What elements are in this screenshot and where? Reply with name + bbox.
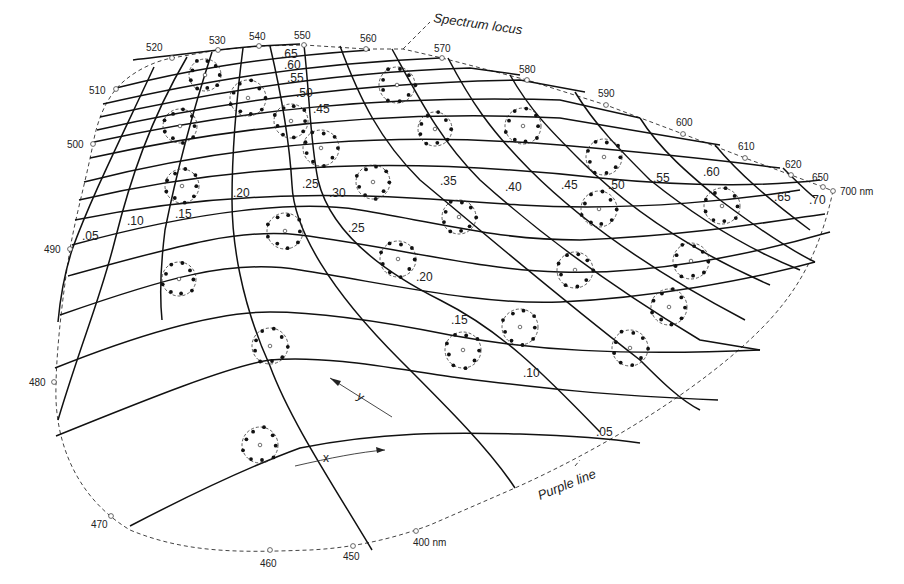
- ellipse: [501, 309, 538, 347]
- y-coordinate-label: .45: [313, 102, 330, 116]
- wavelength-label: 550: [294, 30, 311, 41]
- y-coordinate-label: .10: [523, 366, 540, 380]
- wavelength-markers: [52, 43, 836, 553]
- ellipse: [303, 130, 340, 168]
- x-coordinate-label: .35: [440, 174, 457, 188]
- x-coordinate-label: .45: [561, 178, 578, 192]
- wavelength-marker: [743, 156, 748, 161]
- wavelength-marker: [109, 514, 114, 519]
- wavelength-marker: [414, 529, 419, 534]
- y-coordinate-label: .55: [287, 71, 304, 85]
- ellipse-center: [246, 96, 250, 100]
- ellipse: [161, 261, 196, 296]
- ellipse-center: [518, 325, 522, 329]
- y-arrow-head: [330, 378, 341, 386]
- wavelength-label: 570: [434, 43, 451, 54]
- x-coordinate-label: .50: [608, 178, 625, 192]
- x-coordinate-label: .60: [703, 165, 720, 179]
- ellipse: [580, 190, 619, 227]
- x-coordinate-label: .10: [127, 214, 144, 228]
- ellipse-center: [461, 348, 465, 352]
- ellipse-center: [457, 215, 461, 219]
- x-coordinate-label: .25: [302, 177, 319, 191]
- x-coordinate-label: .40: [505, 180, 522, 194]
- spectrum-locus-leader: [403, 22, 430, 49]
- y-coordinate-label: .05: [596, 425, 613, 439]
- ellipse: [241, 425, 278, 463]
- ellipse: [189, 59, 222, 91]
- ellipse: [586, 139, 622, 175]
- wavelength-marker: [831, 189, 836, 194]
- x-coordinate-label: .65: [774, 190, 791, 204]
- wavelength-marker: [789, 173, 794, 178]
- wavelength-label: 470: [91, 519, 108, 530]
- ellipse-center: [258, 443, 262, 447]
- wavelength-label: 650: [812, 172, 829, 183]
- wavelength-marker: [114, 87, 119, 92]
- y-coordinate-label: .15: [451, 313, 468, 327]
- wavelength-label: 500: [67, 139, 84, 150]
- x-arrow-head: [376, 447, 385, 453]
- x-grid-lines: [58, 45, 815, 550]
- wavelength-marker: [170, 56, 175, 61]
- wavelength-label: 610: [738, 141, 755, 152]
- y-coordinate-label: .20: [416, 270, 433, 284]
- wavelength-marker: [681, 132, 686, 137]
- axis-arrows: [295, 378, 392, 466]
- ellipse-center: [628, 346, 632, 350]
- wavelength-label: 600: [676, 117, 693, 128]
- labels: 520530540550560570580590600610620650700 …: [29, 30, 873, 569]
- ellipse-center: [395, 83, 399, 87]
- discrimination-ellipses: [161, 59, 740, 463]
- ellipse-center: [521, 124, 525, 128]
- x-coordinate-label: .05: [82, 229, 99, 243]
- ellipse-center: [203, 73, 207, 77]
- wavelength-label: 490: [44, 244, 61, 255]
- ellipse-center: [177, 277, 181, 281]
- wavelength-label: 530: [209, 35, 226, 46]
- wavelength-marker: [525, 78, 530, 83]
- wavelength-label: 450: [343, 551, 360, 562]
- x-axis-label: x: [323, 451, 329, 465]
- ellipse-center: [283, 229, 287, 233]
- wavelength-label: 590: [598, 88, 615, 99]
- ellipse-center: [396, 257, 400, 261]
- wavelength-label: 510: [89, 85, 106, 96]
- wavelength-label: 480: [29, 377, 46, 388]
- ellipse: [164, 167, 199, 205]
- x-coordinate-label: .70: [809, 193, 826, 207]
- wavelength-label: 700 nm: [840, 186, 873, 197]
- wavelength-label: 540: [249, 31, 266, 42]
- wavelength-marker: [821, 185, 826, 190]
- ellipse: [266, 213, 303, 250]
- x-coordinate-label: .30: [329, 186, 346, 200]
- y-grid-lines: [55, 44, 830, 526]
- ellipse-center: [319, 146, 323, 150]
- ellipse-center: [720, 204, 724, 208]
- wavelength-marker: [302, 43, 307, 48]
- y-coordinate-label: .25: [348, 221, 365, 235]
- ellipse-center: [371, 180, 375, 184]
- x-arrow-shaft: [295, 450, 385, 466]
- ellipse: [379, 241, 416, 279]
- purple-line-label: Purple line: [536, 466, 599, 503]
- wavelength-marker: [68, 247, 73, 252]
- ellipse: [229, 78, 268, 116]
- wavelength-marker: [52, 380, 57, 385]
- ellipse-center: [667, 305, 671, 309]
- diagram-canvas: 520530540550560570580590600610620650700 …: [0, 0, 904, 584]
- wavelength-label: 400 nm: [413, 537, 446, 548]
- ellipse-center: [689, 259, 693, 263]
- ellipse-center: [573, 268, 577, 272]
- ellipse-center: [602, 155, 606, 159]
- ellipse-center: [289, 119, 293, 123]
- ellipse: [704, 186, 740, 224]
- x-coordinate-label: .15: [175, 207, 192, 221]
- ellipse-center: [178, 124, 182, 128]
- wavelength-label: 460: [260, 558, 277, 569]
- wavelength-label: 560: [360, 33, 377, 44]
- x-coordinate-label: .20: [233, 186, 250, 200]
- wavelength-marker: [216, 48, 221, 53]
- ellipse-center: [180, 184, 184, 188]
- y-axis-label: y: [354, 389, 367, 404]
